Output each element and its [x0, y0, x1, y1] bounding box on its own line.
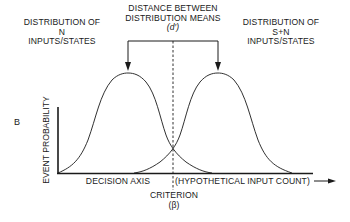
- criterion-label: CRITERION (β): [150, 191, 198, 210]
- means-distance-label: DISTANCE BETWEEN DISTRIBUTION MEANS (d′): [125, 4, 220, 33]
- signal-noise-distribution-label: DISTRIBUTION OF S+N INPUTS/STATES: [243, 18, 319, 47]
- right-mean-arrow-icon: [215, 62, 221, 71]
- noise-label-line3: INPUTS/STATES: [24, 37, 100, 47]
- hypothetical-input-count-label: (HYPOTHETICAL INPUT COUNT): [175, 177, 310, 187]
- beta-symbol: (β): [150, 201, 198, 211]
- x-axis-arrow-icon: [328, 179, 336, 184]
- noise-distribution-curve: [58, 73, 212, 173]
- panel-letter: B: [14, 117, 20, 127]
- signal-detection-diagram: DISTANCE BETWEEN DISTRIBUTION MEANS (d′)…: [0, 0, 350, 222]
- y-axis-label: EVENT PROBABILITY: [41, 96, 51, 183]
- decision-axis-label: DECISION AXIS: [86, 177, 150, 187]
- noise-distribution-label: DISTRIBUTION OF N INPUTS/STATES: [24, 18, 100, 47]
- left-mean-arrow-icon: [125, 62, 131, 71]
- signal-noise-distribution-curve: [134, 73, 292, 173]
- d-prime-symbol: (d′): [125, 23, 220, 33]
- signal-noise-label-line3: INPUTS/STATES: [243, 37, 319, 47]
